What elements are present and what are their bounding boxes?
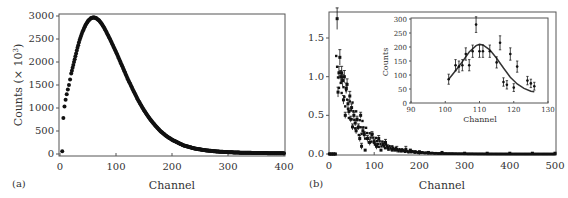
data-point: [482, 50, 485, 53]
data-point: [468, 64, 471, 67]
y-tick-label: 1.0: [308, 71, 324, 82]
data-point: [363, 132, 365, 134]
data-point: [62, 105, 66, 109]
data-point: [352, 114, 355, 117]
data-point: [379, 143, 381, 145]
x-tick-label: 0: [326, 160, 332, 171]
data-point: [282, 151, 286, 155]
x-tick-label: 500: [545, 160, 564, 171]
data-point: [375, 137, 377, 139]
data-point: [365, 127, 367, 129]
y-tick-label: 500: [35, 125, 54, 136]
x-tick-label: 300: [455, 160, 474, 171]
panel-b-inset: 90100110120130 050100150200250300 Channe…: [381, 14, 555, 124]
data-point: [382, 143, 384, 145]
data-point: [465, 53, 468, 56]
data-point: [461, 64, 464, 67]
data-point: [376, 140, 378, 142]
data-point: [349, 109, 351, 111]
data-point: [358, 137, 361, 140]
data-point: [379, 149, 382, 152]
x-tick-label: 100: [365, 160, 384, 171]
data-point: [355, 110, 357, 112]
data-point: [380, 145, 382, 147]
y-tick-label: 0: [48, 148, 54, 159]
x-tick-label: 0: [57, 161, 63, 172]
data-point: [360, 133, 362, 135]
y-tick-label: 100: [394, 72, 407, 80]
panel-a-label: (a): [12, 178, 26, 189]
data-point: [353, 119, 355, 121]
data-point: [346, 83, 349, 86]
data-point: [341, 79, 344, 82]
data-point: [374, 143, 376, 145]
x-tick-label: 400: [274, 161, 293, 172]
data-point: [499, 42, 502, 45]
data-point: [346, 98, 348, 100]
x-tick-label: 100: [439, 106, 452, 114]
data-point: [364, 149, 367, 152]
data-point: [454, 64, 457, 67]
data-point: [348, 95, 351, 98]
data-point: [336, 66, 338, 68]
data-point: [358, 134, 360, 136]
data-point: [371, 133, 373, 135]
data-point: [350, 106, 353, 109]
data-point: [378, 146, 380, 148]
panel-a-frame: [59, 14, 285, 156]
data-point: [447, 78, 450, 81]
data-point: [336, 17, 339, 20]
data-point: [359, 119, 361, 121]
data-point: [338, 87, 340, 89]
data-point: [64, 98, 68, 102]
data-point: [67, 83, 71, 87]
data-point: [68, 77, 72, 81]
y-tick-label: 1500: [29, 79, 54, 90]
y-tick-label: 0.5: [308, 109, 324, 120]
panel-a-chart: 0100200300400 050010001500200025003000 C…: [12, 10, 294, 192]
inset-x-axis-label: Channel: [463, 115, 497, 124]
data-point: [373, 140, 375, 142]
data-point: [61, 116, 65, 120]
y-tick-label: 250: [394, 30, 407, 38]
panel-a-x-axis-label: Channel: [149, 179, 196, 192]
data-point: [475, 23, 478, 26]
data-point: [343, 96, 345, 98]
data-point: [66, 88, 70, 92]
data-point: [370, 140, 372, 142]
data-point: [530, 82, 533, 85]
y-tick-label: 2000: [29, 56, 54, 67]
data-point: [355, 129, 358, 132]
data-point: [359, 114, 362, 117]
data-point: [381, 140, 383, 142]
data-point: [342, 98, 345, 101]
y-tick-label: 2500: [29, 33, 54, 44]
data-point: [368, 141, 370, 143]
data-point: [516, 65, 519, 68]
y-tick-label: 300: [394, 16, 407, 24]
data-point: [346, 102, 349, 105]
data-point: [351, 101, 353, 103]
data-point: [458, 65, 461, 68]
data-point: [378, 140, 380, 142]
data-point: [366, 132, 368, 134]
data-point: [345, 89, 347, 91]
data-point: [340, 82, 342, 84]
data-point: [349, 100, 351, 102]
panel-b-x-axis-label: Channel: [419, 179, 466, 192]
data-point: [350, 118, 352, 120]
data-point: [65, 92, 69, 96]
data-point: [340, 92, 342, 94]
data-point: [526, 79, 529, 82]
data-point: [362, 126, 364, 128]
x-tick-label: 100: [106, 161, 125, 172]
data-point: [502, 81, 505, 84]
data-point: [367, 137, 369, 139]
panel-b-label: (b): [309, 178, 323, 189]
data-point: [554, 153, 556, 155]
data-point: [356, 119, 358, 121]
x-tick-label: 400: [500, 160, 519, 171]
x-tick-label: 200: [410, 160, 429, 171]
data-point: [372, 136, 374, 138]
panel-b-chart: 0100200300400500 0.00.51.01.5 Channel (b…: [308, 8, 564, 192]
